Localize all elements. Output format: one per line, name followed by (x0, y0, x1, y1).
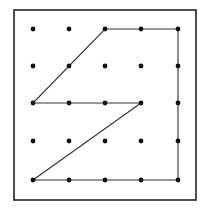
peg-dot (139, 101, 144, 106)
peg-dot (176, 64, 181, 69)
peg-dot (176, 101, 181, 106)
peg-dot (103, 27, 108, 32)
peg-dot (103, 101, 108, 106)
peg-dot (103, 139, 108, 144)
peg-dot (176, 27, 181, 32)
peg-dot (67, 27, 72, 32)
peg-dot (103, 64, 108, 69)
peg-dot (31, 101, 36, 106)
peg-dot (139, 27, 144, 32)
peg-dot (67, 64, 72, 69)
peg-dot (31, 27, 36, 32)
peg-dot (31, 178, 36, 183)
peg-dot (31, 139, 36, 144)
peg-dot (67, 101, 72, 106)
peg-dot (139, 139, 144, 144)
peg-dot (139, 178, 144, 183)
peg-dot (176, 178, 181, 183)
peg-dot (139, 64, 144, 69)
peg-dot (103, 178, 108, 183)
geoboard-diagram (0, 0, 204, 209)
peg-dot (31, 64, 36, 69)
peg-dot (176, 139, 181, 144)
peg-dot (67, 139, 72, 144)
peg-dot (67, 178, 72, 183)
peg-grid (31, 27, 181, 183)
